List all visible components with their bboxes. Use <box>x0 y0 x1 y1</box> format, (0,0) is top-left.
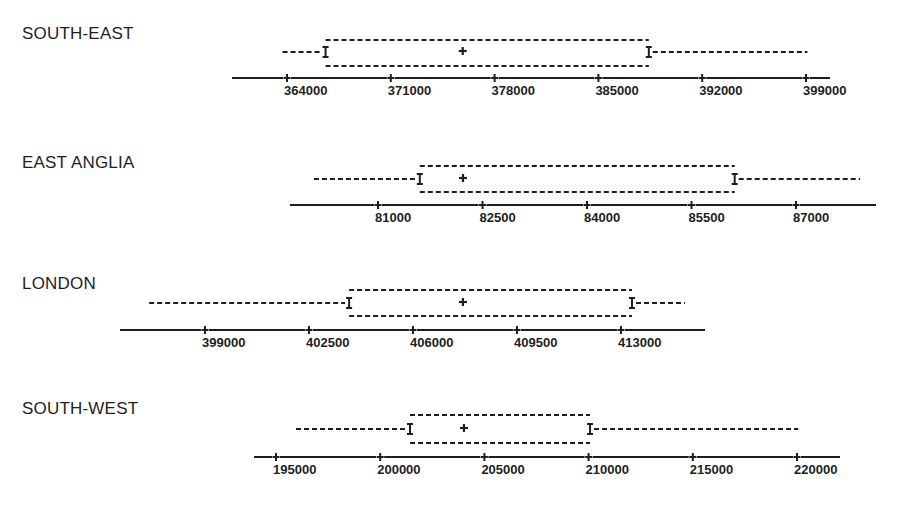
center-plus-marker <box>460 424 468 432</box>
panel-south-east: 364000371000378000385000392000399000 <box>232 40 846 98</box>
box-high-marker <box>646 47 652 57</box>
tick-label: 385000 <box>595 83 638 98</box>
tick-label: 215000 <box>690 462 733 477</box>
panel-east-anglia: 8100082500840008550087000 <box>290 166 876 225</box>
tick-label: 378000 <box>492 83 535 98</box>
center-plus-marker <box>459 47 467 55</box>
tick-label: 364000 <box>284 83 327 98</box>
tick-label: 205000 <box>481 462 524 477</box>
tick-label: 195000 <box>273 462 316 477</box>
tick-label: 210000 <box>586 462 629 477</box>
tick-label: 399000 <box>803 83 846 98</box>
tick-label: 406000 <box>410 335 453 350</box>
tick-label: 399000 <box>202 335 245 350</box>
tick-label: 413000 <box>618 335 661 350</box>
tick-label: 402500 <box>306 335 349 350</box>
tick-label: 82500 <box>480 210 516 225</box>
tick-label: 81000 <box>375 210 411 225</box>
tick-label: 85500 <box>689 210 725 225</box>
center-plus-marker <box>459 298 467 306</box>
plot-area: 3640003710003780003850003920003990008100… <box>0 0 899 505</box>
tick-label: 392000 <box>699 83 742 98</box>
box-high-marker <box>587 424 593 434</box>
tick-label: 409500 <box>514 335 557 350</box>
tick-label: 220000 <box>794 462 837 477</box>
tick-label: 84000 <box>584 210 620 225</box>
panel-london: 399000402500406000409500413000 <box>120 290 705 350</box>
box-high-marker <box>732 174 738 184</box>
box-low-marker <box>407 424 413 434</box>
box-low-marker <box>323 47 329 57</box>
tick-label: 371000 <box>388 83 431 98</box>
box-low-marker <box>346 298 352 308</box>
box-high-marker <box>629 298 635 308</box>
box-plot-figure: SOUTH-EAST EAST ANGLIA LONDON SOUTH-WEST… <box>0 0 899 505</box>
tick-label: 87000 <box>793 210 829 225</box>
center-plus-marker <box>459 174 467 182</box>
box-low-marker <box>417 174 423 184</box>
panel-south-west: 195000200000205000210000215000220000 <box>254 415 840 477</box>
tick-label: 200000 <box>377 462 420 477</box>
